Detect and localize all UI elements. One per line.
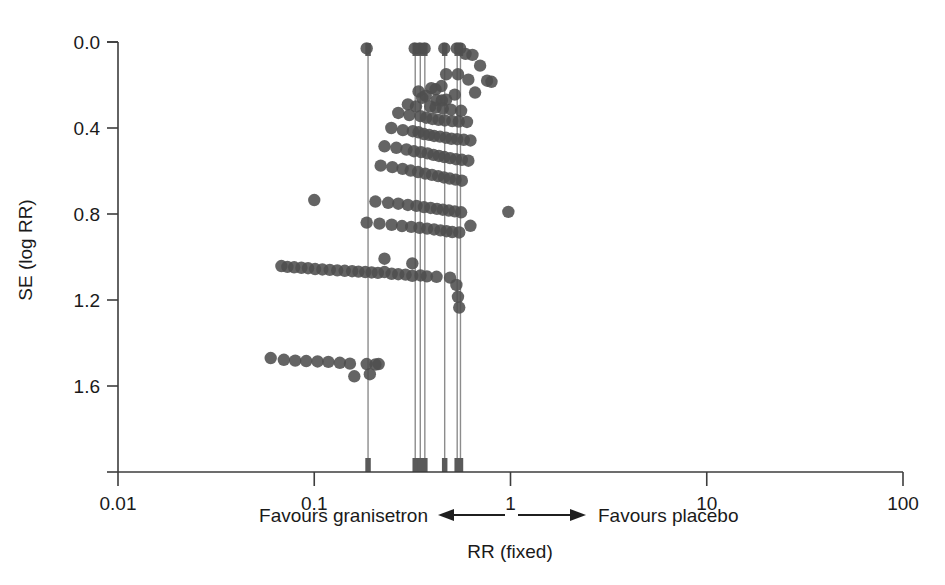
left-arrow-icon bbox=[438, 509, 505, 521]
data-point bbox=[348, 370, 360, 382]
data-point bbox=[469, 86, 481, 98]
data-point bbox=[450, 279, 462, 291]
data-point bbox=[311, 355, 323, 367]
data-point-group bbox=[265, 42, 515, 382]
data-point bbox=[344, 357, 356, 369]
data-point bbox=[374, 159, 386, 171]
y-axis-ticks: 0.00.40.81.21.6 bbox=[74, 32, 118, 472]
data-point bbox=[485, 76, 497, 88]
data-point bbox=[378, 253, 390, 265]
y-tick-label: 1.6 bbox=[74, 376, 100, 397]
x-axis-ticks: 0.010.1110100 bbox=[100, 472, 919, 514]
data-point bbox=[456, 174, 468, 186]
data-point bbox=[455, 206, 467, 218]
y-axis-title: SE (log RR) bbox=[15, 199, 36, 300]
data-point bbox=[300, 355, 312, 367]
favours-granisetron-label: Favours granisetron bbox=[259, 505, 428, 526]
data-point bbox=[453, 301, 465, 313]
y-tick-label: 0.0 bbox=[74, 32, 100, 53]
data-point bbox=[406, 257, 418, 269]
data-point bbox=[360, 216, 372, 228]
funnel-plot-canvas: 0.00.40.81.21.6 0.010.1110100 SE (log RR… bbox=[0, 0, 945, 585]
data-point bbox=[403, 109, 415, 121]
data-point bbox=[378, 140, 390, 152]
data-point bbox=[360, 42, 372, 54]
data-point bbox=[464, 220, 476, 232]
data-point bbox=[369, 195, 381, 207]
data-point bbox=[430, 271, 442, 283]
data-point bbox=[466, 49, 478, 61]
x-tick-label: 0.01 bbox=[100, 493, 137, 514]
data-point bbox=[462, 73, 474, 85]
data-point bbox=[392, 107, 404, 119]
y-tick-label: 0.4 bbox=[74, 118, 101, 139]
data-point bbox=[461, 116, 473, 128]
data-point bbox=[455, 105, 467, 117]
data-point bbox=[278, 354, 290, 366]
data-point bbox=[265, 352, 277, 364]
data-point bbox=[322, 356, 334, 368]
y-tick-label: 0.8 bbox=[74, 204, 100, 225]
funnel-plot-figure: 0.00.40.81.21.6 0.010.1110100 SE (log RR… bbox=[0, 0, 945, 585]
data-point bbox=[385, 122, 397, 134]
data-point bbox=[372, 358, 384, 370]
data-point bbox=[440, 68, 452, 80]
y-tick-label: 1.2 bbox=[74, 290, 100, 311]
data-point bbox=[462, 154, 474, 166]
data-point bbox=[418, 42, 430, 54]
data-point bbox=[438, 42, 450, 54]
data-point bbox=[289, 354, 301, 366]
data-point bbox=[464, 134, 476, 146]
data-point bbox=[308, 194, 320, 206]
x-axis-title: RR (fixed) bbox=[467, 541, 553, 562]
data-point bbox=[453, 226, 465, 238]
data-point bbox=[373, 217, 385, 229]
data-point bbox=[474, 59, 486, 71]
axis-group: 0.00.40.81.21.6 0.010.1110100 bbox=[74, 32, 919, 514]
right-arrow-icon bbox=[518, 509, 586, 521]
favours-placebo-label: Favours placebo bbox=[598, 505, 738, 526]
data-point bbox=[502, 206, 514, 218]
x-tick-label: 100 bbox=[887, 493, 919, 514]
x-tick-label: 1 bbox=[505, 493, 516, 514]
data-point bbox=[452, 291, 464, 303]
